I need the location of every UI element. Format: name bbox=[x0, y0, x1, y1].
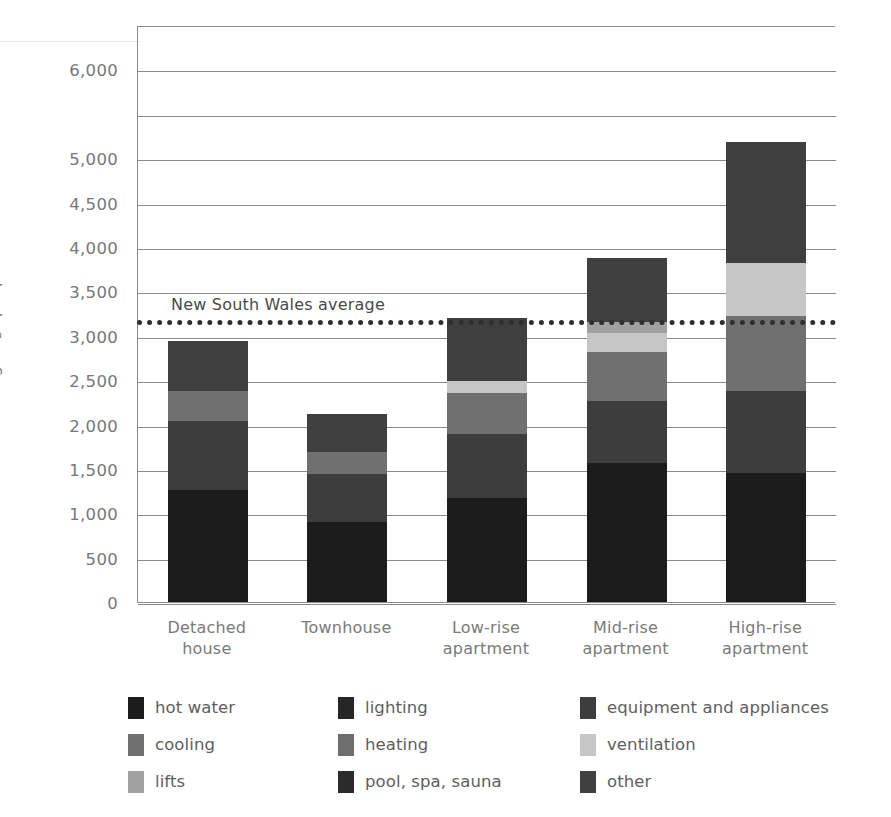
bar-segment-hot-water[interactable] bbox=[447, 498, 527, 602]
bar-segment-cooling[interactable] bbox=[447, 393, 527, 434]
bar-segment-equipment-and-appliances[interactable] bbox=[587, 401, 667, 463]
legend-swatch-icon bbox=[128, 734, 144, 756]
y-tick-1500: 1,500 bbox=[0, 460, 118, 479]
bar-segment-equipment-and-appliances[interactable] bbox=[726, 391, 806, 474]
y-tick-1000: 1,000 bbox=[0, 505, 118, 524]
legend-label: lighting bbox=[365, 698, 428, 717]
y-tick-6000: 6,000 bbox=[0, 61, 118, 80]
bar-segment-hot-water[interactable] bbox=[587, 463, 667, 602]
y-tick-3500: 3,500 bbox=[0, 283, 118, 302]
emissions-stacked-bar-chart: kg CO2e per person 6,0005,0004,5004,0003… bbox=[0, 0, 891, 817]
legend-label: pool, spa, sauna bbox=[365, 772, 502, 791]
x-tick-line2: apartment bbox=[582, 638, 668, 659]
bar-5[interactable] bbox=[726, 25, 806, 602]
bar-segment-equipment-and-appliances[interactable] bbox=[447, 434, 527, 498]
legend-item-heating[interactable]: heating bbox=[338, 734, 580, 756]
x-tick-line1: High-rise bbox=[722, 617, 808, 638]
y-tick-3000: 3,000 bbox=[0, 327, 118, 346]
x-tick-line1: Townhouse bbox=[301, 617, 391, 638]
bar-segment-ventilation[interactable] bbox=[587, 333, 667, 352]
y-tick-5000: 5,000 bbox=[0, 150, 118, 169]
legend-label: equipment and appliances bbox=[607, 698, 829, 717]
legend-item-pool-spa-sauna[interactable]: pool, spa, sauna bbox=[338, 771, 580, 793]
bar-segment-other[interactable] bbox=[447, 318, 527, 381]
y-tick-0: 0 bbox=[0, 594, 118, 613]
bar-segment-cooling[interactable] bbox=[307, 452, 387, 474]
x-tick-1: Detachedhouse bbox=[167, 617, 246, 659]
bar-segment-hot-water[interactable] bbox=[307, 522, 387, 602]
legend-label: cooling bbox=[155, 735, 215, 754]
nsw-average-line bbox=[137, 320, 836, 325]
legend-swatch-icon bbox=[580, 734, 596, 756]
plot-area: New South Wales average bbox=[137, 26, 835, 603]
bar-segment-other[interactable] bbox=[587, 258, 667, 322]
bar-segment-ventilation[interactable] bbox=[726, 263, 806, 316]
bar-segment-other[interactable] bbox=[168, 341, 248, 391]
chart-legend: hot waterlightingequipment and appliance… bbox=[128, 689, 868, 800]
bar-segment-hot-water[interactable] bbox=[726, 473, 806, 602]
x-tick-5: High-riseapartment bbox=[722, 617, 808, 659]
x-tick-line2: apartment bbox=[722, 638, 808, 659]
legend-item-other[interactable]: other bbox=[580, 771, 868, 793]
nsw-average-label: New South Wales average bbox=[171, 295, 385, 314]
x-tick-line1: Detached bbox=[167, 617, 246, 638]
y-tick-2500: 2,500 bbox=[0, 372, 118, 391]
y-tick-500: 500 bbox=[0, 549, 118, 568]
legend-swatch-icon bbox=[580, 697, 596, 719]
legend-label: ventilation bbox=[607, 735, 696, 754]
y-tick-4000: 4,000 bbox=[0, 238, 118, 257]
legend-label: other bbox=[607, 772, 651, 791]
bar-segment-cooling[interactable] bbox=[168, 391, 248, 421]
legend-item-ventilation[interactable]: ventilation bbox=[580, 734, 868, 756]
bar-3[interactable] bbox=[447, 25, 527, 602]
bar-segment-cooling[interactable] bbox=[726, 316, 806, 391]
x-tick-line1: Low-rise bbox=[443, 617, 529, 638]
bar-segment-ventilation[interactable] bbox=[447, 381, 527, 393]
bar-segment-other[interactable] bbox=[726, 142, 806, 263]
top-divider bbox=[0, 41, 140, 42]
x-tick-2: Townhouse bbox=[301, 617, 391, 638]
x-tick-4: Mid-riseapartment bbox=[582, 617, 668, 659]
legend-swatch-icon bbox=[338, 734, 354, 756]
bar-segment-equipment-and-appliances[interactable] bbox=[307, 474, 387, 522]
legend-swatch-icon bbox=[338, 771, 354, 793]
legend-swatch-icon bbox=[580, 771, 596, 793]
bar-segment-cooling[interactable] bbox=[587, 352, 667, 401]
legend-item-cooling[interactable]: cooling bbox=[128, 734, 338, 756]
legend-label: hot water bbox=[155, 698, 235, 717]
x-tick-line1: Mid-rise bbox=[582, 617, 668, 638]
x-tick-3: Low-riseapartment bbox=[443, 617, 529, 659]
y-tick-2000: 2,000 bbox=[0, 416, 118, 435]
legend-item-hot-water[interactable]: hot water bbox=[128, 697, 338, 719]
x-tick-line2: house bbox=[167, 638, 246, 659]
legend-label: heating bbox=[365, 735, 428, 754]
legend-swatch-icon bbox=[128, 771, 144, 793]
bar-4[interactable] bbox=[587, 25, 667, 602]
legend-item-equipment-and-appliances[interactable]: equipment and appliances bbox=[580, 697, 868, 719]
gridline-0 bbox=[138, 604, 836, 605]
legend-swatch-icon bbox=[128, 697, 144, 719]
bar-segment-hot-water[interactable] bbox=[168, 490, 248, 602]
bar-segment-other[interactable] bbox=[307, 414, 387, 452]
legend-item-lifts[interactable]: lifts bbox=[128, 771, 338, 793]
y-tick-4500: 4,500 bbox=[0, 194, 118, 213]
legend-item-lighting[interactable]: lighting bbox=[338, 697, 580, 719]
legend-swatch-icon bbox=[338, 697, 354, 719]
bar-segment-equipment-and-appliances[interactable] bbox=[168, 421, 248, 490]
x-tick-line2: apartment bbox=[443, 638, 529, 659]
legend-label: lifts bbox=[155, 772, 185, 791]
